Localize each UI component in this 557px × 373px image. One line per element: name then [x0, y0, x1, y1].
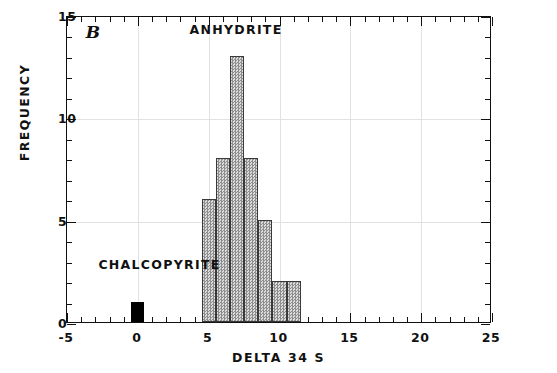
axis-tick-minor: [478, 317, 479, 322]
axis-tick-minor: [110, 17, 111, 22]
axis-tick-minor: [195, 17, 196, 22]
histogram-bar: [131, 302, 144, 322]
axis-tick-minor: [485, 263, 490, 264]
axis-tick-minor: [67, 160, 72, 161]
axis-tick-major: [67, 324, 76, 325]
axis-tick-minor: [365, 317, 366, 322]
axis-tick-minor: [485, 181, 490, 182]
axis-tick-minor: [485, 242, 490, 243]
axis-tick-minor: [485, 283, 490, 284]
axis-tick-minor: [435, 17, 436, 22]
axis-tick-minor: [464, 317, 465, 322]
axis-tick-minor: [379, 17, 380, 22]
axis-tick-minor: [393, 317, 394, 322]
x-tick-label: 20: [411, 330, 429, 345]
axis-tick-minor: [478, 17, 479, 22]
x-tick-label: 10: [269, 330, 287, 345]
axis-tick-minor: [124, 317, 125, 322]
x-tick-label: 5: [203, 330, 212, 345]
axis-tick-minor: [67, 99, 72, 100]
axis-tick-minor: [435, 317, 436, 322]
axis-tick-minor: [485, 99, 490, 100]
axis-tick-minor: [251, 17, 252, 22]
histogram-bar: [216, 158, 230, 322]
axis-tick-minor: [81, 17, 82, 22]
histogram-bar: [244, 158, 258, 322]
axis-tick-major: [481, 222, 490, 223]
axis-tick-minor: [180, 17, 181, 22]
axis-tick-minor: [336, 17, 337, 22]
axis-tick-minor: [265, 17, 266, 22]
axis-tick-major: [350, 313, 351, 322]
axis-tick-minor: [152, 17, 153, 22]
axis-tick-minor: [407, 317, 408, 322]
x-axis-title: DELTA 34 S: [0, 350, 557, 365]
axis-tick-major: [492, 313, 493, 322]
axis-tick-major: [481, 119, 490, 120]
axis-tick-minor: [67, 78, 72, 79]
y-tick-label: 15: [58, 9, 76, 24]
axis-tick-minor: [450, 17, 451, 22]
axis-tick-minor: [67, 181, 72, 182]
axis-tick-major: [492, 17, 493, 26]
axis-tick-minor: [294, 17, 295, 22]
gridline-vertical: [350, 17, 351, 322]
axis-tick-major: [138, 17, 139, 26]
gridline-horizontal: [67, 119, 490, 120]
axis-tick-minor: [393, 17, 394, 22]
y-tick-label: 0: [58, 316, 67, 331]
histogram-bar: [287, 281, 301, 322]
series-annotation: CHALCOPYRITE: [98, 257, 220, 272]
axis-tick-minor: [379, 317, 380, 322]
axis-tick-minor: [95, 17, 96, 22]
axis-tick-major: [350, 17, 351, 26]
axis-tick-minor: [485, 37, 490, 38]
axis-tick-minor: [67, 37, 72, 38]
axis-tick-minor: [322, 317, 323, 322]
axis-tick-minor: [152, 317, 153, 322]
axis-tick-minor: [110, 317, 111, 322]
histogram-bar: [258, 220, 272, 322]
axis-tick-minor: [95, 317, 96, 322]
axis-tick-minor: [365, 17, 366, 22]
x-tick-label: 15: [340, 330, 358, 345]
axis-tick-minor: [464, 17, 465, 22]
panel-label: B: [86, 22, 100, 42]
axis-tick-major: [67, 222, 76, 223]
axis-tick-minor: [485, 140, 490, 141]
axis-tick-minor: [166, 17, 167, 22]
histogram-bar: [230, 56, 244, 322]
plot-area: [66, 16, 491, 323]
axis-tick-minor: [67, 242, 72, 243]
axis-tick-minor: [67, 201, 72, 202]
histogram-figure: DELTA 34 S FREQUENCY -50510152025051015A…: [0, 0, 557, 373]
axis-tick-major: [481, 324, 490, 325]
axis-tick-minor: [485, 58, 490, 59]
axis-tick-minor: [67, 304, 72, 305]
axis-tick-minor: [180, 317, 181, 322]
axis-tick-minor: [450, 317, 451, 322]
axis-tick-major: [421, 17, 422, 26]
gridline-vertical: [280, 17, 281, 322]
series-annotation: ANHYDRITE: [189, 22, 282, 37]
axis-tick-minor: [67, 140, 72, 141]
axis-tick-minor: [322, 17, 323, 22]
axis-tick-minor: [195, 317, 196, 322]
x-tick-label: 0: [132, 330, 141, 345]
y-tick-label: 5: [58, 213, 67, 228]
axis-tick-minor: [485, 160, 490, 161]
axis-tick-major: [421, 313, 422, 322]
axis-tick-minor: [308, 317, 309, 322]
gridline-vertical: [138, 17, 139, 322]
histogram-bar: [272, 281, 286, 322]
x-tick-label: 25: [482, 330, 500, 345]
gridline-horizontal: [67, 222, 490, 223]
axis-tick-minor: [67, 283, 72, 284]
y-tick-label: 10: [58, 111, 76, 126]
axis-tick-minor: [485, 201, 490, 202]
axis-tick-minor: [223, 17, 224, 22]
axis-tick-minor: [485, 304, 490, 305]
axis-tick-minor: [81, 317, 82, 322]
gridline-vertical: [421, 17, 422, 322]
axis-tick-minor: [237, 17, 238, 22]
